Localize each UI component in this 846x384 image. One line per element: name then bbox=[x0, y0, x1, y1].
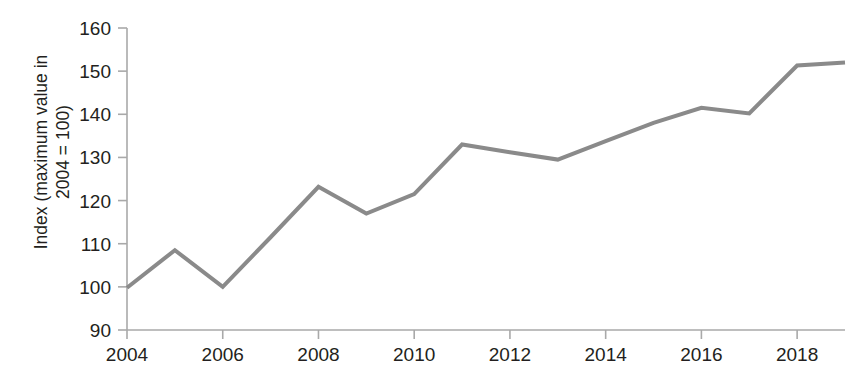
x-tick-label: 2010 bbox=[393, 344, 435, 365]
y-tick-label: 140 bbox=[79, 104, 111, 125]
y-tick-label: 160 bbox=[79, 18, 111, 39]
y-tick-label: 150 bbox=[79, 61, 111, 82]
x-tick-label: 2018 bbox=[776, 344, 818, 365]
x-tick-label: 2008 bbox=[297, 344, 339, 365]
x-tick-label: 2014 bbox=[585, 344, 628, 365]
y-tick-label: 120 bbox=[79, 191, 111, 212]
y-axis-ticks: 90100110120130140150160 bbox=[79, 18, 127, 341]
x-axis-ticks: 20042006200820102012201420162018 bbox=[106, 330, 818, 365]
x-tick-label: 2004 bbox=[106, 344, 149, 365]
y-tick-label: 110 bbox=[81, 234, 111, 255]
y-tick-label: 130 bbox=[79, 147, 111, 168]
x-tick-label: 2012 bbox=[489, 344, 531, 365]
x-tick-label: 2016 bbox=[680, 344, 722, 365]
y-tick-label: 90 bbox=[90, 320, 111, 341]
x-tick-label: 2006 bbox=[202, 344, 244, 365]
line-chart: Index (maximum value in2004 = 100) 90100… bbox=[0, 0, 846, 384]
y-tick-label: 100 bbox=[79, 277, 111, 298]
data-series-line bbox=[127, 63, 845, 288]
plot-area: 90100110120130140150160 2004200620082010… bbox=[0, 0, 846, 384]
